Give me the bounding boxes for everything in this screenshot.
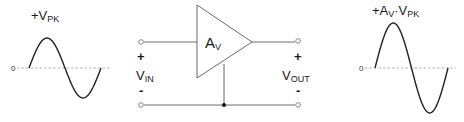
output-zero-label: 0 [359,64,364,73]
input-terminal-plus [139,40,144,45]
output-minus-sign: - [296,83,300,98]
input-waveform: 0 +VPK [11,8,110,98]
output-peak-label: +AV·VPK [372,3,419,19]
output-plus-sign: + [294,49,302,64]
output-terminal-plus [296,39,301,44]
input-voltage-label: VIN [136,68,154,84]
junction-dot [222,103,226,107]
output-voltage-label: VOUT [282,68,310,84]
amplifier-diagram: 0 +VPK AV + VIN - + VOUT - 0 +AV·VPK [0,0,464,122]
input-terminal-minus [139,103,144,108]
input-peak-label: +VPK [31,8,59,24]
input-zero-label: 0 [11,64,16,73]
input-minus-sign: - [139,83,143,98]
output-waveform: 0 +AV·VPK [359,3,456,113]
amplifier-circuit: AV + VIN - + VOUT - [136,5,310,107]
output-terminal-minus [296,103,301,108]
input-plus-sign: + [137,49,145,64]
